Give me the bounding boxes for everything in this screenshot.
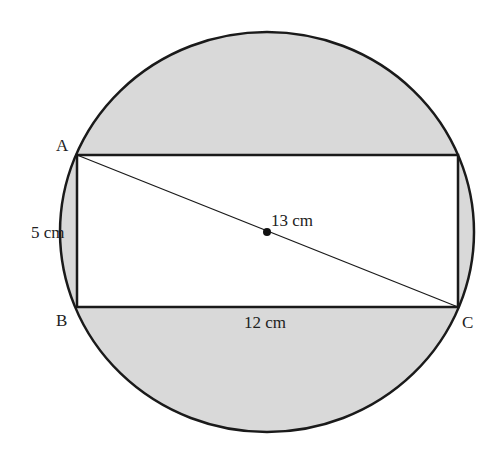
side-bc-label: 12 cm (244, 314, 286, 331)
figure (0, 0, 495, 450)
side-ab-label: 5 cm (31, 224, 65, 241)
point-c-label: C (462, 314, 473, 331)
point-a-label: A (56, 137, 68, 154)
center-dot (263, 228, 271, 236)
point-b-label: B (56, 312, 67, 329)
diagonal-label: 13 cm (271, 212, 313, 229)
